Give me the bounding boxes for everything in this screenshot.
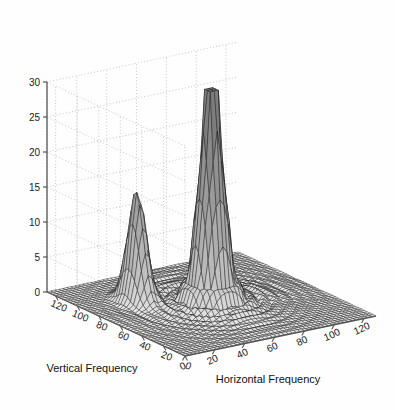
x-tick-label: 20 [205,352,220,367]
z-tick-label: 0 [34,287,40,298]
mesh-surface [47,88,376,356]
z-tick-label: 10 [29,217,41,228]
z-tick-label: 30 [29,77,41,88]
y-tick-label: 0 [184,360,194,372]
figure-container: 0510152025300204060801001200204060801001… [0,0,395,410]
z-tick-label: 15 [29,182,41,193]
y-axis-title: Vertical Frequency [46,362,138,374]
x-tick-label: 40 [235,346,250,361]
z-tick-label: 5 [34,252,40,263]
x-tick-label: 120 [352,320,372,337]
surface-plot: 0510152025300204060801001200204060801001… [0,0,395,410]
z-tick-label: 20 [29,147,41,158]
x-axis-title: Horizontal Frequency [216,373,321,385]
x-tick-label: 100 [322,326,342,343]
x-tick-label: 80 [295,333,310,348]
x-tick-label: 60 [265,340,280,355]
z-tick-label: 25 [29,112,41,123]
